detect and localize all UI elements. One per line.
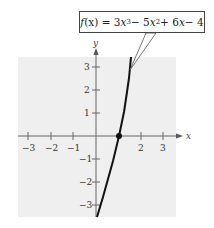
- annotation-text: − 5: [131, 16, 150, 28]
- zero-point: [116, 133, 122, 139]
- y-tick-label: 2: [84, 85, 90, 95]
- y-axis-label: y: [92, 38, 99, 48]
- x-tick-label: 3: [160, 143, 166, 153]
- annotation-text: + 6: [160, 16, 179, 28]
- y-tick-label: 1: [84, 108, 90, 118]
- annotation-text: − 4: [185, 16, 204, 28]
- y-tick-label: 3: [84, 62, 90, 72]
- function-graph: x y −3 −2 −1 2 3 3 2 1 −1 −2 −3: [0, 0, 214, 228]
- y-axis-arrow-icon: [94, 48, 99, 55]
- plot-background: [18, 57, 176, 217]
- x-axis-label: x: [186, 131, 191, 141]
- y-tick-label: −1: [79, 154, 92, 164]
- y-tick-label: −2: [79, 177, 92, 187]
- annotation-text: (x) = 3: [84, 16, 120, 28]
- x-axis-arrow-icon: [176, 134, 183, 139]
- y-tick-label: −3: [79, 200, 93, 210]
- x-tick-label: −1: [67, 143, 80, 153]
- x-tick-label: 2: [138, 143, 144, 153]
- x-tick-label: −2: [45, 143, 58, 153]
- x-tick-label: −3: [22, 143, 36, 153]
- function-annotation: f(x) = 3x3 − 5x2 + 6x − 4: [79, 11, 205, 33]
- annotation-x: x: [150, 16, 156, 28]
